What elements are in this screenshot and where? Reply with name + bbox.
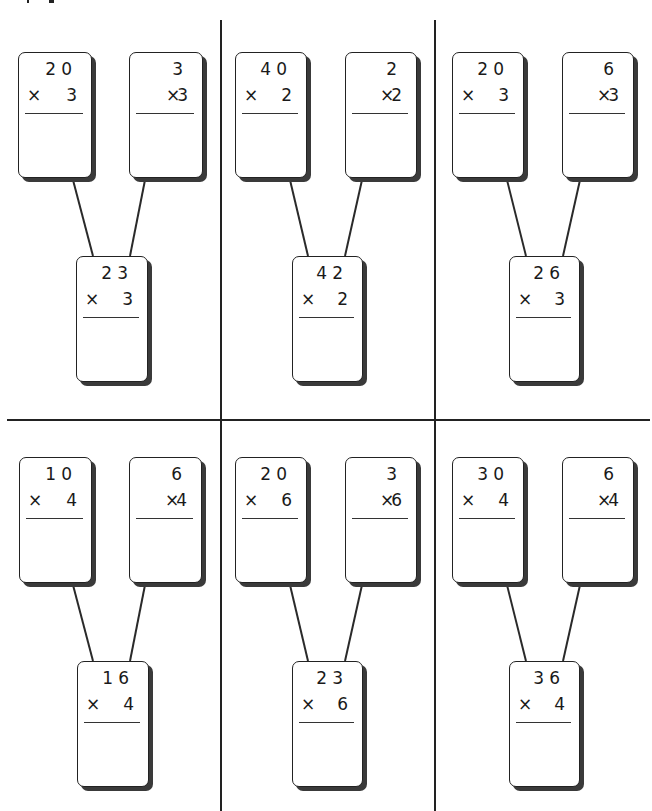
left-card: 20 × 6: [235, 457, 307, 583]
answer-line: [569, 113, 625, 114]
combined-card: 26 × 3: [509, 256, 580, 382]
top-number: 10: [45, 464, 77, 484]
multiplier: 4: [66, 490, 77, 510]
answer-line: [136, 518, 193, 519]
answer-line: [242, 113, 298, 114]
right-card: 3 × 3: [129, 52, 203, 178]
top-number: 16: [102, 668, 134, 688]
top-number: 6: [603, 59, 619, 79]
top-number: 20: [260, 464, 292, 484]
top-number: 23: [101, 263, 133, 283]
answer-line: [136, 113, 194, 114]
multiplier: 4: [498, 490, 509, 510]
row-divider: [7, 419, 650, 421]
multiplier: 3: [122, 289, 133, 309]
top-number: 40: [260, 59, 292, 79]
answer-line: [352, 518, 408, 519]
top-number: 6: [603, 464, 619, 484]
top-number: 20: [477, 59, 509, 79]
times-icon: ×: [85, 289, 99, 309]
answer-line: [516, 722, 571, 723]
left-card: 40 × 2: [235, 52, 307, 178]
combined-card: 16 × 4: [77, 661, 149, 787]
multiplier: 6: [281, 490, 292, 510]
left-card: 20 × 3: [452, 52, 524, 178]
answer-line: [516, 317, 571, 318]
column-divider-1: [220, 20, 222, 811]
multiplier: 4: [176, 490, 187, 510]
answer-line: [299, 722, 354, 723]
top-number: 36: [533, 668, 565, 688]
multiplier: 3: [66, 85, 77, 105]
answer-line: [569, 518, 625, 519]
top-number: 26: [533, 263, 565, 283]
right-card: 6 × 4: [562, 457, 634, 583]
times-icon: ×: [301, 289, 315, 309]
multiplier: 3: [554, 289, 565, 309]
times-icon: ×: [86, 694, 100, 714]
combined-card: 36 × 4: [509, 661, 580, 787]
right-card: 6 × 4: [129, 457, 202, 583]
top-number: 2: [386, 59, 402, 79]
times-icon: ×: [461, 85, 475, 105]
left-card: 20 × 3: [18, 52, 92, 178]
multiplier: 2: [337, 289, 348, 309]
answer-line: [459, 518, 515, 519]
multiplier: 4: [608, 490, 619, 510]
times-icon: ×: [28, 490, 42, 510]
right-card: 2 × 2: [345, 52, 417, 178]
multiplier: 3: [498, 85, 509, 105]
answer-line: [299, 317, 354, 318]
top-number: 6: [171, 464, 187, 484]
answer-line: [83, 317, 139, 318]
top-number: 3: [386, 464, 402, 484]
times-icon: ×: [244, 85, 258, 105]
cropped-text-remnant: [27, 0, 29, 3]
cropped-text-remnant: [49, 0, 54, 3]
combined-card: 23 × 6: [292, 661, 363, 787]
multiplier: 3: [177, 85, 188, 105]
multiplier: 2: [391, 85, 402, 105]
multiplier: 3: [608, 85, 619, 105]
top-number: 23: [316, 668, 348, 688]
times-icon: ×: [518, 694, 532, 714]
top-number: 42: [316, 263, 348, 283]
multiplier: 6: [337, 694, 348, 714]
answer-line: [459, 113, 515, 114]
column-divider-2: [434, 20, 436, 811]
top-number: 30: [477, 464, 509, 484]
times-icon: ×: [518, 289, 532, 309]
multiplier: 4: [554, 694, 565, 714]
combined-card: 42 × 2: [292, 256, 363, 382]
right-card: 6 × 3: [562, 52, 634, 178]
multiplier: 4: [123, 694, 134, 714]
left-card: 30 × 4: [452, 457, 524, 583]
answer-line: [84, 722, 140, 723]
top-number: 3: [172, 59, 188, 79]
times-icon: ×: [244, 490, 258, 510]
left-card: 10 × 4: [19, 457, 92, 583]
answer-line: [26, 518, 83, 519]
answer-line: [242, 518, 298, 519]
multiplier: 2: [281, 85, 292, 105]
combined-card: 23 × 3: [76, 256, 148, 382]
times-icon: ×: [461, 490, 475, 510]
multiplier: 6: [391, 490, 402, 510]
top-number: 20: [45, 59, 77, 79]
right-card: 3 × 6: [345, 457, 417, 583]
times-icon: ×: [27, 85, 41, 105]
answer-line: [352, 113, 408, 114]
times-icon: ×: [301, 694, 315, 714]
answer-line: [25, 113, 83, 114]
